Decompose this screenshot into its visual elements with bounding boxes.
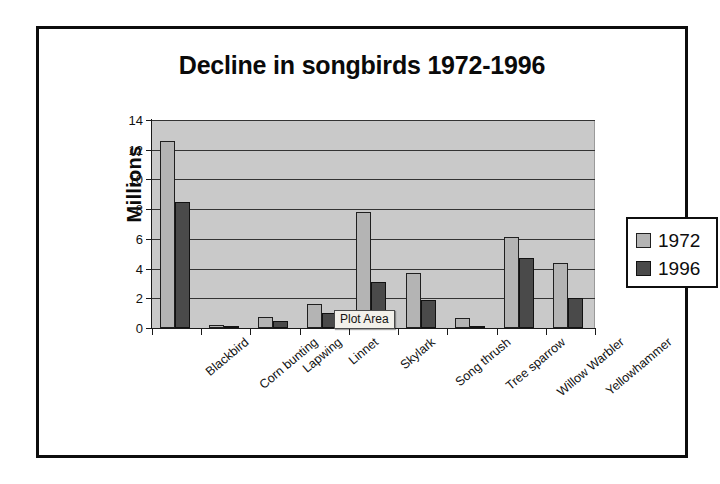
x-axis-tick (349, 328, 350, 335)
legend-item-1996[interactable]: 1996 (636, 254, 716, 282)
bar-1972-tree-sparrow[interactable] (455, 318, 470, 328)
bar-group (497, 120, 546, 328)
scanned-page: Decline in songbirds 1972-1996 Millions … (0, 0, 720, 484)
chart-legend[interactable]: 19721996 (626, 217, 718, 288)
legend-swatch-1996 (636, 261, 651, 276)
x-axis-label-skylark: Skylark (397, 335, 437, 372)
legend-label-1972: 1972 (658, 231, 700, 250)
bar-group (250, 120, 299, 328)
y-axis-tick-label: 0 (136, 321, 143, 336)
x-axis-tick (201, 328, 202, 335)
bar-group (447, 120, 496, 328)
y-axis-tick-label: 14 (129, 113, 143, 128)
chart-title: Decline in songbirds 1972-1996 (39, 51, 685, 80)
x-axis-tick (152, 328, 153, 335)
plot-area-tooltip: Plot Area (334, 310, 395, 329)
plot-wrap: 02468101214 (152, 120, 595, 328)
x-axis-tick (595, 328, 596, 335)
x-axis-category-labels: BlackbirdCorn buntingLapwingLinnetSkylar… (152, 335, 595, 445)
bar-1996-blackbird[interactable] (175, 202, 190, 328)
bar-group (546, 120, 595, 328)
bar-group (349, 120, 398, 328)
bar-group (300, 120, 349, 328)
y-axis-tick-label: 8 (136, 202, 143, 217)
bar-1972-lapwing[interactable] (258, 317, 273, 328)
x-axis-tick (300, 328, 301, 335)
y-axis-tick-label: 6 (136, 231, 143, 246)
x-axis-tick (398, 328, 399, 335)
x-axis-tick (546, 328, 547, 335)
bar-1996-lapwing[interactable] (273, 321, 288, 328)
bar-group (201, 120, 250, 328)
legend-label-1996: 1996 (658, 259, 700, 278)
bar-1996-willow-warbler[interactable] (519, 258, 534, 328)
bar-1972-yellowhammer[interactable] (553, 263, 568, 328)
bar-1972-willow-warbler[interactable] (504, 237, 519, 328)
y-axis-tick-label: 4 (136, 261, 143, 276)
legend-item-1972[interactable]: 1972 (636, 226, 716, 254)
x-axis-label-linnet: Linnet (346, 335, 381, 368)
bar-group (152, 120, 201, 328)
y-axis-tick-label: 2 (136, 291, 143, 306)
x-axis-tick (250, 328, 251, 335)
y-axis-tick-label: 10 (129, 172, 143, 187)
bar-1972-blackbird[interactable] (160, 141, 175, 328)
bar-1972-linnet[interactable] (307, 304, 322, 328)
bar-group (398, 120, 447, 328)
x-axis-tick (447, 328, 448, 335)
bar-1996-yellowhammer[interactable] (568, 298, 583, 328)
bar-1972-song-thrush[interactable] (406, 273, 421, 328)
bar-1996-song-thrush[interactable] (421, 300, 436, 328)
chart-frame: Decline in songbirds 1972-1996 Millions … (36, 26, 688, 458)
y-axis-tick-label: 12 (129, 142, 143, 157)
x-axis-label-blackbird: Blackbird (203, 335, 251, 379)
x-axis-tick (497, 328, 498, 335)
legend-swatch-1972 (636, 233, 651, 248)
